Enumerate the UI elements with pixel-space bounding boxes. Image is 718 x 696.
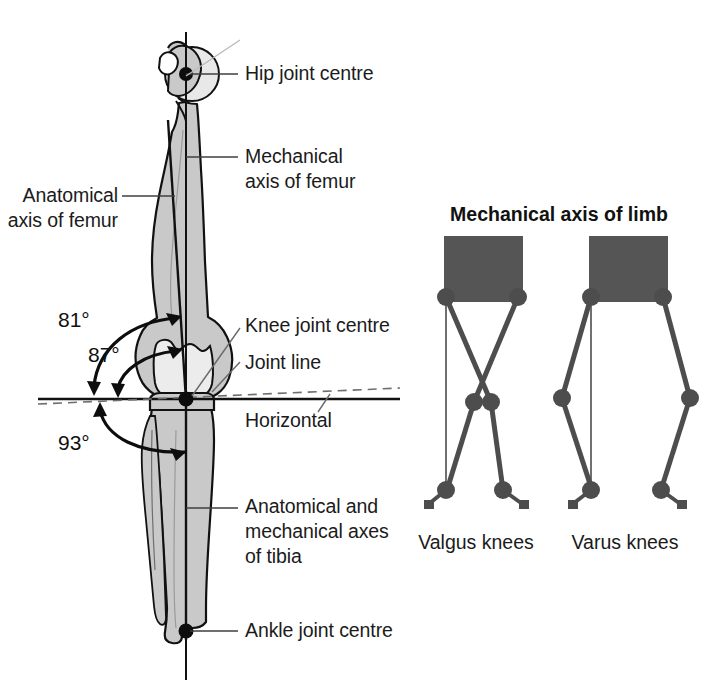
valgus-knee-right — [465, 393, 483, 411]
valgus-hip-right — [509, 288, 527, 306]
valgus-left-tibia — [491, 402, 503, 490]
femur-bone — [136, 42, 233, 400]
label-tibia-axes: Anatomical and mechanical axes of tibia — [245, 494, 389, 569]
valgus-right-tibia — [447, 402, 474, 490]
valgus-right-femur — [474, 297, 518, 402]
angle-arrow-87-bottom — [111, 383, 125, 398]
angle-value-87: 87° — [88, 343, 120, 367]
angle-value-81: 81° — [58, 308, 90, 332]
varus-ankle-right — [652, 481, 670, 499]
varus-knee-right — [681, 389, 699, 407]
varus-right-foot-tip — [677, 500, 687, 509]
label-joint-line: Joint line — [245, 350, 321, 375]
tibia-fibula-bone — [142, 393, 214, 643]
angle-value-93: 93° — [58, 431, 90, 455]
valgus-left-foot-tip — [424, 500, 434, 509]
valgus-knees-figure — [424, 236, 529, 509]
panel-title-mechanical-axis-of-limb: Mechanical axis of limb — [428, 203, 690, 226]
trochanteric-fossa — [159, 52, 178, 74]
label-ankle-joint-centre: Ankle joint centre — [245, 618, 393, 643]
varus-left-foot-tip — [568, 500, 578, 509]
valgus-hip-left — [437, 288, 455, 306]
varus-right-tibia — [661, 398, 690, 490]
valgus-ankle-right — [494, 481, 512, 499]
varus-knee-left — [553, 389, 571, 407]
label-horizontal: Horizontal — [245, 408, 332, 433]
anatomy-figure: Hip joint centre Mechanical axis of femu… — [0, 0, 718, 696]
varus-right-femur — [663, 297, 690, 398]
label-knee-joint-centre: Knee joint centre — [245, 313, 390, 338]
label-anatomical-axis-femur: Anatomical axis of femur — [0, 183, 118, 233]
varus-left-femur — [562, 297, 591, 398]
caption-varus-knees: Varus knees — [565, 531, 685, 554]
valgus-right-foot-tip — [519, 500, 529, 509]
caption-valgus-knees: Valgus knees — [416, 531, 536, 554]
label-mechanical-axis-femur: Mechanical axis of femur — [245, 144, 355, 194]
varus-knees-figure — [553, 236, 699, 509]
varus-left-tibia — [562, 398, 592, 490]
knee-joint-centre-dot — [179, 392, 194, 407]
varus-ankle-left — [582, 481, 600, 499]
valgus-ankle-left — [437, 481, 455, 499]
valgus-left-femur — [446, 297, 491, 402]
varus-hip-left — [582, 288, 600, 306]
label-hip-joint-centre: Hip joint centre — [245, 61, 373, 86]
valgus-knee-left — [482, 393, 500, 411]
varus-hip-right — [654, 288, 672, 306]
angle-arrow-81-bottom — [87, 381, 101, 396]
angle-arrow-93-top — [93, 402, 107, 417]
